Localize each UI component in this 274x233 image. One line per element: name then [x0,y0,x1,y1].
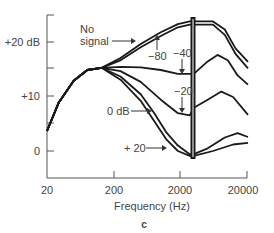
x-tick-label: 20 [41,184,53,196]
panel-label: c [141,219,147,230]
y-tick-label: +20 dB [5,36,40,48]
arrowhead-icon [179,108,185,113]
annotation-m40: −40 [173,47,192,59]
x-tick-label: 20000 [228,184,259,196]
annotation-no-signal: No [80,23,94,35]
y-tick-label: +10 [21,90,40,102]
x-tick-label: 2000 [168,184,192,196]
arrowhead-icon [162,145,167,151]
annotation-m80: −80 [148,50,167,62]
curves [47,21,248,156]
annotation-no-signal: signal [80,35,109,47]
frequency-response-chart: +20 dB +10 0 20 200 2000 20000 Frequency… [0,0,274,233]
annotation-0db: 0 dB [107,105,130,117]
x-tick-label: 200 [105,184,123,196]
annotation-m20: −20 [174,85,193,97]
arrowhead-icon [131,38,136,44]
y-tick-label: 0 [34,145,40,157]
x-axis-label: Frequency (Hz) [114,200,190,212]
annotation-plus20: + 20 [124,142,146,154]
series-line-no-signal [47,21,248,131]
